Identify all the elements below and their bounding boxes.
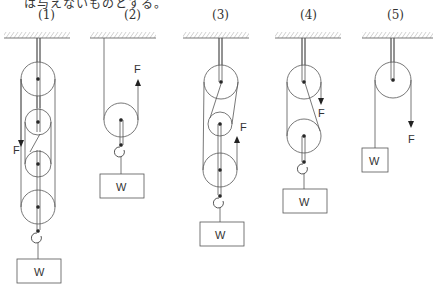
weight-label-4: W [299, 196, 310, 208]
diagram-5 [362, 32, 433, 172]
diagram-3 [183, 32, 249, 246]
force-label-1: F [13, 144, 20, 156]
diagram-4 [275, 32, 341, 213]
weight-label-2: W [116, 181, 127, 193]
weight-label-1: W [34, 266, 45, 278]
force-label-3: F [240, 121, 247, 133]
weight-label-5: W [369, 155, 380, 167]
force-label-2: F [134, 63, 141, 75]
weight-label-3: W [215, 229, 226, 241]
pulley-diagrams: F W F W [0, 0, 433, 291]
force-label-5: F [408, 133, 415, 145]
diagram-2 [90, 32, 156, 198]
diagram-1 [4, 32, 70, 283]
force-label-4: F [318, 107, 325, 119]
